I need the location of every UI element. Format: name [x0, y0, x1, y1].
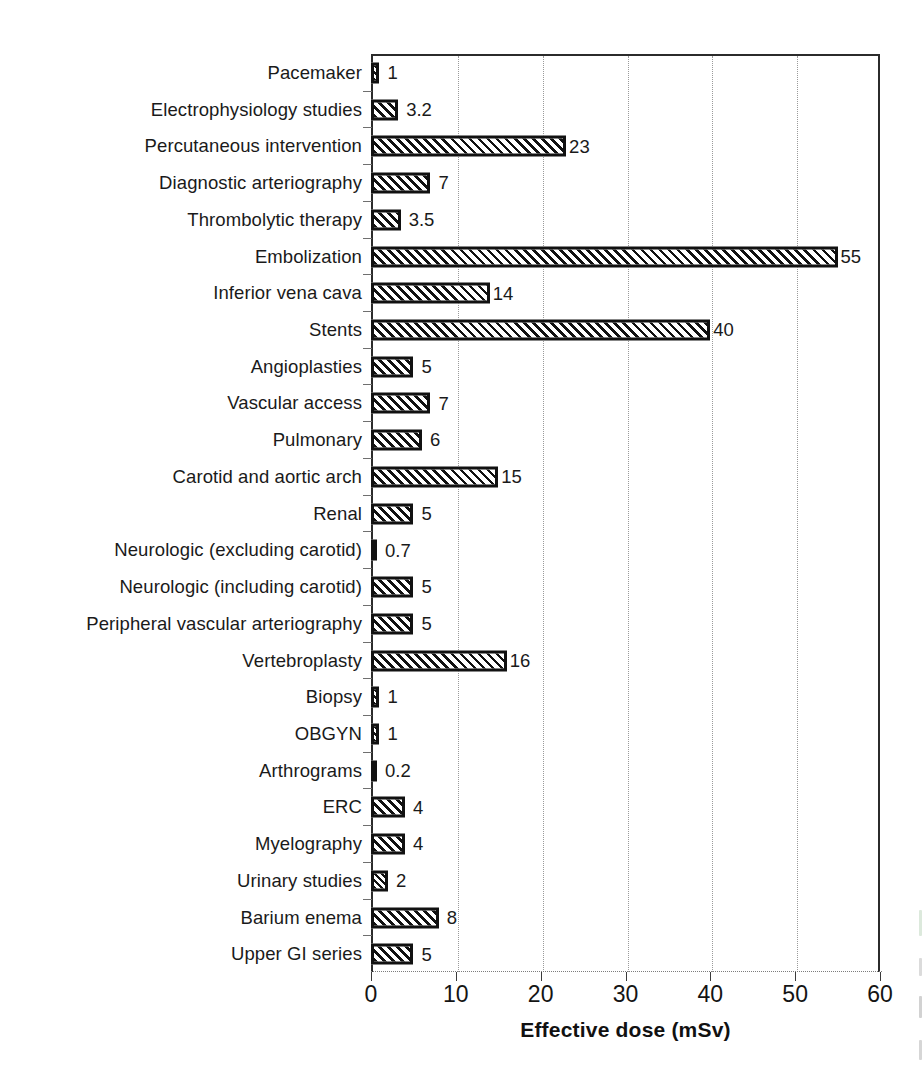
- bar-row: Myelography4: [0, 825, 924, 863]
- bar-row: Pulmonary6: [0, 421, 924, 459]
- x-axis-tick-label: 30: [613, 983, 639, 1006]
- bar: [371, 760, 377, 781]
- x-axis-tick: [795, 972, 796, 981]
- value-label: 4: [413, 798, 423, 817]
- bar-and-value: 2: [371, 870, 406, 891]
- bar-and-value: 3.5: [371, 209, 434, 230]
- bar-row: Carotid and aortic arch15: [0, 458, 924, 496]
- y-axis-tick: [363, 238, 372, 239]
- y-axis-tick: [363, 678, 372, 679]
- bar-and-value: 15: [371, 466, 522, 487]
- y-axis-tick: [363, 862, 372, 863]
- bar: [371, 577, 413, 598]
- bar-row: Embolization55: [0, 238, 924, 276]
- category-label: Stents: [309, 321, 362, 340]
- y-axis-tick: [363, 421, 372, 422]
- category-label: Peripheral vascular arteriography: [86, 615, 362, 634]
- value-label: 4: [413, 835, 423, 854]
- y-axis-tick: [363, 495, 372, 496]
- bar-row: OBGYN1: [0, 715, 924, 753]
- bar-row: Barium enema8: [0, 899, 924, 937]
- bar-row: Thrombolytic therapy3.5: [0, 201, 924, 239]
- y-axis-tick: [363, 899, 372, 900]
- category-label: Myelography: [255, 835, 362, 854]
- y-axis-tick: [363, 164, 372, 165]
- x-axis-title: Effective dose (mSv): [371, 1018, 880, 1042]
- bar: [371, 687, 379, 708]
- bar-row: Diagnostic arteriography7: [0, 164, 924, 202]
- bar-and-value: 40: [371, 320, 734, 341]
- value-label: 5: [421, 358, 431, 377]
- x-axis-tick-label: 20: [528, 983, 554, 1006]
- bar-row: Angioplasties5: [0, 348, 924, 386]
- bar: [371, 907, 439, 928]
- bar-row: Peripheral vascular arteriography5: [0, 605, 924, 643]
- category-label: Vascular access: [227, 394, 362, 413]
- category-label: Renal: [313, 504, 362, 523]
- x-axis-tick-label: 60: [867, 983, 893, 1006]
- value-label: 5: [421, 615, 431, 634]
- bar: [371, 723, 379, 744]
- bar-and-value: 0.7: [371, 540, 411, 561]
- category-label: Diagnostic arteriography: [159, 174, 362, 193]
- value-label: 2: [396, 872, 406, 891]
- bar-and-value: 5: [371, 503, 432, 524]
- x-axis-tick: [626, 972, 627, 981]
- bar-row: Renal5: [0, 495, 924, 533]
- y-axis-tick: [363, 752, 372, 753]
- category-label: Barium enema: [240, 908, 362, 927]
- bar-and-value: 14: [371, 283, 513, 304]
- effective-dose-bar-chart: Pacemaker1Electrophysiology studies3.2Pe…: [0, 0, 924, 1081]
- x-axis-tick-label: 10: [443, 983, 469, 1006]
- bar: [371, 63, 379, 84]
- value-label: 40: [713, 321, 734, 340]
- bar: [371, 430, 422, 451]
- value-label: 3.5: [409, 211, 435, 230]
- bar: [371, 797, 405, 818]
- category-label: OBGYN: [295, 725, 362, 744]
- category-label: Arthrograms: [259, 761, 362, 780]
- x-axis-tick: [880, 972, 881, 981]
- value-label: 8: [447, 908, 457, 927]
- bar-row: Inferior vena cava14: [0, 274, 924, 312]
- category-label: Pulmonary: [273, 431, 362, 450]
- category-label: Thrombolytic therapy: [187, 211, 362, 230]
- bar-row: Biopsy1: [0, 678, 924, 716]
- y-axis-tick: [363, 384, 372, 385]
- bar-and-value: 8: [371, 907, 457, 928]
- y-axis-tick: [363, 531, 372, 532]
- category-label: Embolization: [255, 247, 362, 266]
- bar: [371, 870, 388, 891]
- value-label: 5: [421, 578, 431, 597]
- bar-row: Stents40: [0, 311, 924, 349]
- y-axis-tick: [363, 201, 372, 202]
- value-label: 0.7: [385, 541, 411, 560]
- value-label: 3.2: [406, 100, 432, 119]
- bar-and-value: 4: [371, 834, 423, 855]
- category-label: Pacemaker: [268, 64, 362, 83]
- category-label: Neurologic (excluding carotid): [114, 541, 362, 560]
- y-axis-tick: [363, 568, 372, 569]
- bar: [371, 613, 413, 634]
- category-label: Carotid and aortic arch: [173, 468, 362, 487]
- bar-and-value: 23: [371, 136, 590, 157]
- bar-and-value: 16: [371, 650, 530, 671]
- category-label: Inferior vena cava: [213, 284, 362, 303]
- x-axis-tick: [371, 972, 372, 981]
- y-axis-tick: [363, 91, 372, 92]
- value-label: 14: [493, 284, 514, 303]
- bar: [371, 246, 838, 267]
- bar-row: Upper GI series5: [0, 935, 924, 973]
- bar-and-value: 3.2: [371, 99, 432, 120]
- category-label: Urinary studies: [237, 872, 362, 891]
- value-label: 1: [387, 725, 397, 744]
- category-label: Percutaneous intervention: [145, 137, 362, 156]
- value-label: 6: [430, 431, 440, 450]
- bar-row: Arthrograms0.2: [0, 752, 924, 790]
- bar: [371, 540, 377, 561]
- value-label: 7: [438, 394, 448, 413]
- bar-row: ERC4: [0, 788, 924, 826]
- bar-and-value: 1: [371, 723, 398, 744]
- bar-and-value: 4: [371, 797, 423, 818]
- bar: [371, 393, 430, 414]
